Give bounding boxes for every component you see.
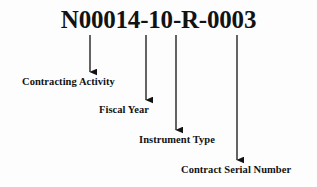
label-contracting-activity: Contracting Activity — [22, 75, 115, 88]
label-fiscal-year: Fiscal Year — [99, 103, 149, 116]
contract-number-heading: N00014-10-R-0003 — [0, 6, 317, 34]
label-contract-serial-number: Contract Serial Number — [181, 163, 291, 176]
label-instrument-type: Instrument Type — [139, 133, 215, 146]
contract-number-diagram: N00014-10-R-0003 Contracting Activity Fi… — [0, 0, 317, 187]
